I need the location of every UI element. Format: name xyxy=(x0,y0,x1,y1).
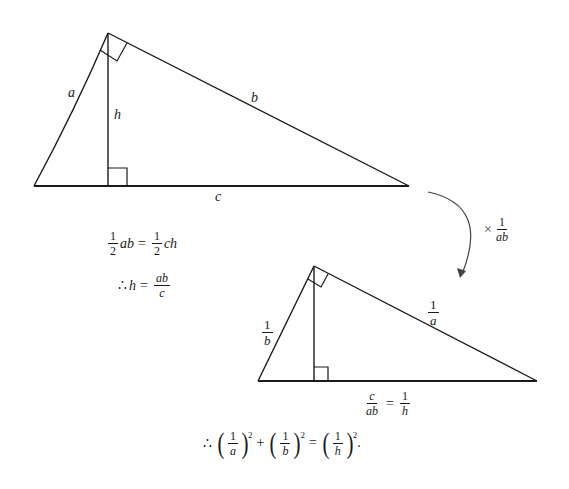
transform-arrow xyxy=(428,192,471,278)
right-angle-foot xyxy=(314,367,328,381)
triangle-original xyxy=(34,33,409,186)
fraction-half: 12 xyxy=(108,230,118,257)
side-b xyxy=(108,33,409,186)
side-a xyxy=(34,33,108,186)
label-1-over-a: 1 a xyxy=(428,298,439,327)
label-a: a xyxy=(68,86,75,100)
fraction-half: 12 xyxy=(152,230,162,257)
base-label: cab = 1h xyxy=(362,390,412,417)
fraction-c-over-ab: cab xyxy=(364,390,380,417)
diagram-canvas xyxy=(0,0,569,489)
label-c: c xyxy=(215,190,221,204)
final-equation: ∴ ( 1a ) 2 + ( 1b ) 2 = ( 1h ) 2 . xyxy=(203,428,361,458)
label-1-over-b: 1 b xyxy=(262,318,273,347)
fraction-1-over-h: 1h xyxy=(400,390,410,417)
therefore-h-equation: ∴ h = abc xyxy=(118,272,172,299)
right-angle-foot xyxy=(108,168,127,186)
fraction-1-over-ab: 1ab xyxy=(494,216,510,243)
arrowhead-icon xyxy=(457,268,466,278)
side-right xyxy=(314,266,537,381)
area-equation: 12 ab = 12 ch xyxy=(106,230,177,257)
right-angle-apex xyxy=(308,274,328,287)
fraction-ab-over-c: abc xyxy=(154,272,170,299)
multiply-label: × 1ab xyxy=(484,216,512,243)
triangle-scaled xyxy=(258,266,537,381)
label-h: h xyxy=(114,108,121,122)
right-angle-apex xyxy=(100,43,127,61)
label-b: b xyxy=(251,91,258,105)
